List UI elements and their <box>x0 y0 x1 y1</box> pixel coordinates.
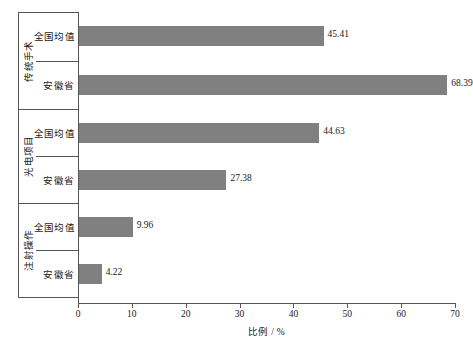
group-bracket-top <box>18 203 78 204</box>
group-label: 注射操作 <box>21 222 35 278</box>
group-label: 光电项目 <box>21 128 35 184</box>
group-bracket-spine <box>18 12 19 109</box>
bar[interactable] <box>79 217 133 237</box>
group-bracket-top <box>18 109 78 110</box>
x-axis-tick-label: 70 <box>440 309 470 319</box>
x-axis-tick-label: 30 <box>225 309 255 319</box>
row-label: 安徽省 <box>34 267 74 281</box>
x-axis-tick <box>455 304 456 308</box>
group-bracket-bottom <box>18 297 78 298</box>
x-axis-tick-label: 10 <box>117 309 147 319</box>
x-axis-tick <box>240 304 241 308</box>
row-label: 全国均值 <box>34 29 74 43</box>
bar[interactable] <box>79 264 102 284</box>
x-axis-tick <box>347 304 348 308</box>
x-axis-tick-label: 50 <box>332 309 362 319</box>
y-axis-line <box>78 12 79 303</box>
row-label: 安徽省 <box>34 173 74 187</box>
x-axis-tick <box>78 304 79 308</box>
x-axis-tick-label: 60 <box>386 309 416 319</box>
row-separator <box>36 156 78 157</box>
x-axis-tick <box>186 304 187 308</box>
group-bracket-spine <box>18 109 19 203</box>
row-separator <box>36 61 78 62</box>
bar[interactable] <box>79 123 319 143</box>
x-axis-tick-label: 40 <box>278 309 308 319</box>
row-separator <box>36 250 78 251</box>
row-label: 安徽省 <box>34 78 74 92</box>
group-bracket-top <box>18 12 78 13</box>
x-axis-tick <box>293 304 294 308</box>
row-label: 全国均值 <box>34 220 74 234</box>
bar-value-label: 68.39 <box>451 78 472 88</box>
x-axis-line <box>78 303 456 304</box>
bar[interactable] <box>79 75 447 95</box>
x-axis-tick <box>401 304 402 308</box>
x-axis-tick-label: 0 <box>63 309 93 319</box>
bar-value-label: 4.22 <box>106 267 123 277</box>
row-label: 全国均值 <box>34 126 74 140</box>
bar[interactable] <box>79 26 324 46</box>
bar-value-label: 9.96 <box>137 220 154 230</box>
bar-value-label: 27.38 <box>230 173 251 183</box>
bar-value-label: 45.41 <box>328 29 349 39</box>
group-label: 传统手术 <box>21 33 35 89</box>
bar-value-label: 44.63 <box>323 126 344 136</box>
bar[interactable] <box>79 170 226 190</box>
x-axis-tick <box>132 304 133 308</box>
x-axis-title: 比例 / % <box>78 324 455 338</box>
group-bracket-spine <box>18 203 19 297</box>
x-axis-tick-label: 20 <box>171 309 201 319</box>
